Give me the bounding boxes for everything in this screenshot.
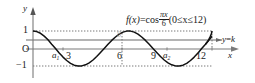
xtick-label-12: 12 (196, 51, 206, 61)
x-axis-arrow (231, 46, 239, 51)
y-axis-label: y (23, 4, 27, 13)
scan-artifact-label: 8 (117, 31, 121, 39)
origin-label: O (22, 44, 29, 54)
function-formula: f(x)=cosπx6(0≤x≤12) (126, 11, 206, 29)
xtick-label-a2: a2 (163, 51, 170, 61)
xtick-label-9: 9 (151, 51, 156, 61)
formula-fraction: πx6 (159, 11, 169, 29)
formula-domain: (0≤x≤12) (169, 14, 207, 25)
xtick-label-3: 3 (66, 51, 71, 61)
x-axis-label: x (228, 51, 232, 60)
ytick-label-minus-1: −1 (16, 60, 27, 70)
formula-denominator: 6 (159, 20, 169, 28)
ytick-label-1: 1 (23, 25, 28, 35)
line-k-label-k: k (231, 34, 235, 44)
formula-cos: cos (146, 14, 159, 25)
xtick-label-6: 6 (117, 51, 122, 61)
line-k-label: y=k (222, 35, 235, 44)
math-figure: y x O 1 −1 a1 3 6 9 a2 12 f(x)=cosπx6(0≤… (0, 0, 255, 83)
formula-function-name: f(x) (126, 14, 140, 25)
y-axis-arrow (30, 7, 35, 15)
xtick-label-a1-sub: 1 (57, 55, 60, 61)
xtick-label-a2-sub: 2 (168, 55, 171, 61)
xtick-label-a1: a1 (52, 51, 59, 61)
